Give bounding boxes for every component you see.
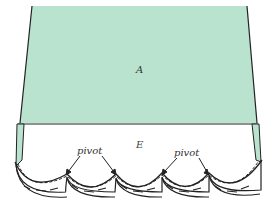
facing-e-label: E <box>136 139 143 150</box>
pattern-diagram <box>0 0 267 203</box>
panel-a-label: A <box>136 64 143 75</box>
stitch-line <box>18 162 258 187</box>
right-side-tab <box>252 124 261 162</box>
pivot-label-right: pivot <box>174 147 199 158</box>
pivot-label-left: pivot <box>77 145 102 156</box>
pivot-arrows <box>66 156 209 175</box>
scallop-outer-edge <box>16 160 261 192</box>
left-side-tab <box>16 124 24 166</box>
